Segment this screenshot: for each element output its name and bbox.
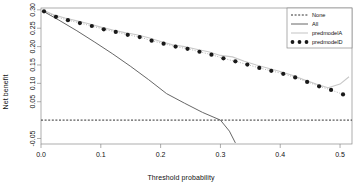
data-point	[78, 21, 82, 25]
legend-label: None	[312, 12, 325, 18]
x-tick-label: 0.1	[96, 151, 106, 158]
legend-label: All	[312, 21, 318, 27]
x-axis-title: Threshold probability	[0, 174, 362, 181]
plot-canvas: 0.00.10.20.30.40.5-0.050.050.100.150.200…	[0, 0, 362, 183]
data-point	[114, 30, 118, 34]
x-tick-label: 0.2	[156, 151, 166, 158]
data-point	[257, 66, 261, 70]
decision-curve-chart: 0.00.10.20.30.40.5-0.050.050.100.150.200…	[0, 0, 362, 183]
legend-label: predmodelA	[312, 30, 342, 36]
data-point	[66, 18, 70, 22]
y-tick-label: 0.15	[30, 58, 37, 72]
y-tick-label: 0.25	[30, 21, 37, 35]
y-axis-title: Net benefit	[1, 62, 11, 122]
legend-swatch-predmodeld	[298, 40, 302, 44]
data-point	[162, 42, 166, 46]
data-point	[245, 63, 249, 67]
y-tick-label: 0.20	[30, 40, 37, 54]
legend-label: predmodelD	[312, 39, 342, 45]
y-tick-label: -0.05	[30, 130, 37, 146]
legend-swatch-predmodeld	[305, 40, 309, 44]
x-tick-label: 0.4	[275, 151, 285, 158]
data-point	[209, 53, 213, 57]
data-point	[341, 92, 345, 96]
y-tick-label: 0.30	[30, 3, 37, 17]
y-tick-label: 0.05	[30, 95, 37, 109]
series-line-All	[44, 12, 235, 143]
x-tick-label: 0.0	[36, 151, 46, 158]
legend-swatch-predmodeld	[291, 40, 295, 44]
x-tick-label: 0.3	[216, 151, 226, 158]
data-point	[329, 88, 333, 92]
x-tick-label: 0.5	[335, 151, 345, 158]
y-tick-label: 0.10	[30, 76, 37, 90]
data-point	[197, 50, 201, 54]
data-point	[221, 56, 225, 60]
data-point	[269, 69, 273, 73]
data-point	[305, 80, 309, 84]
data-point	[317, 84, 321, 88]
